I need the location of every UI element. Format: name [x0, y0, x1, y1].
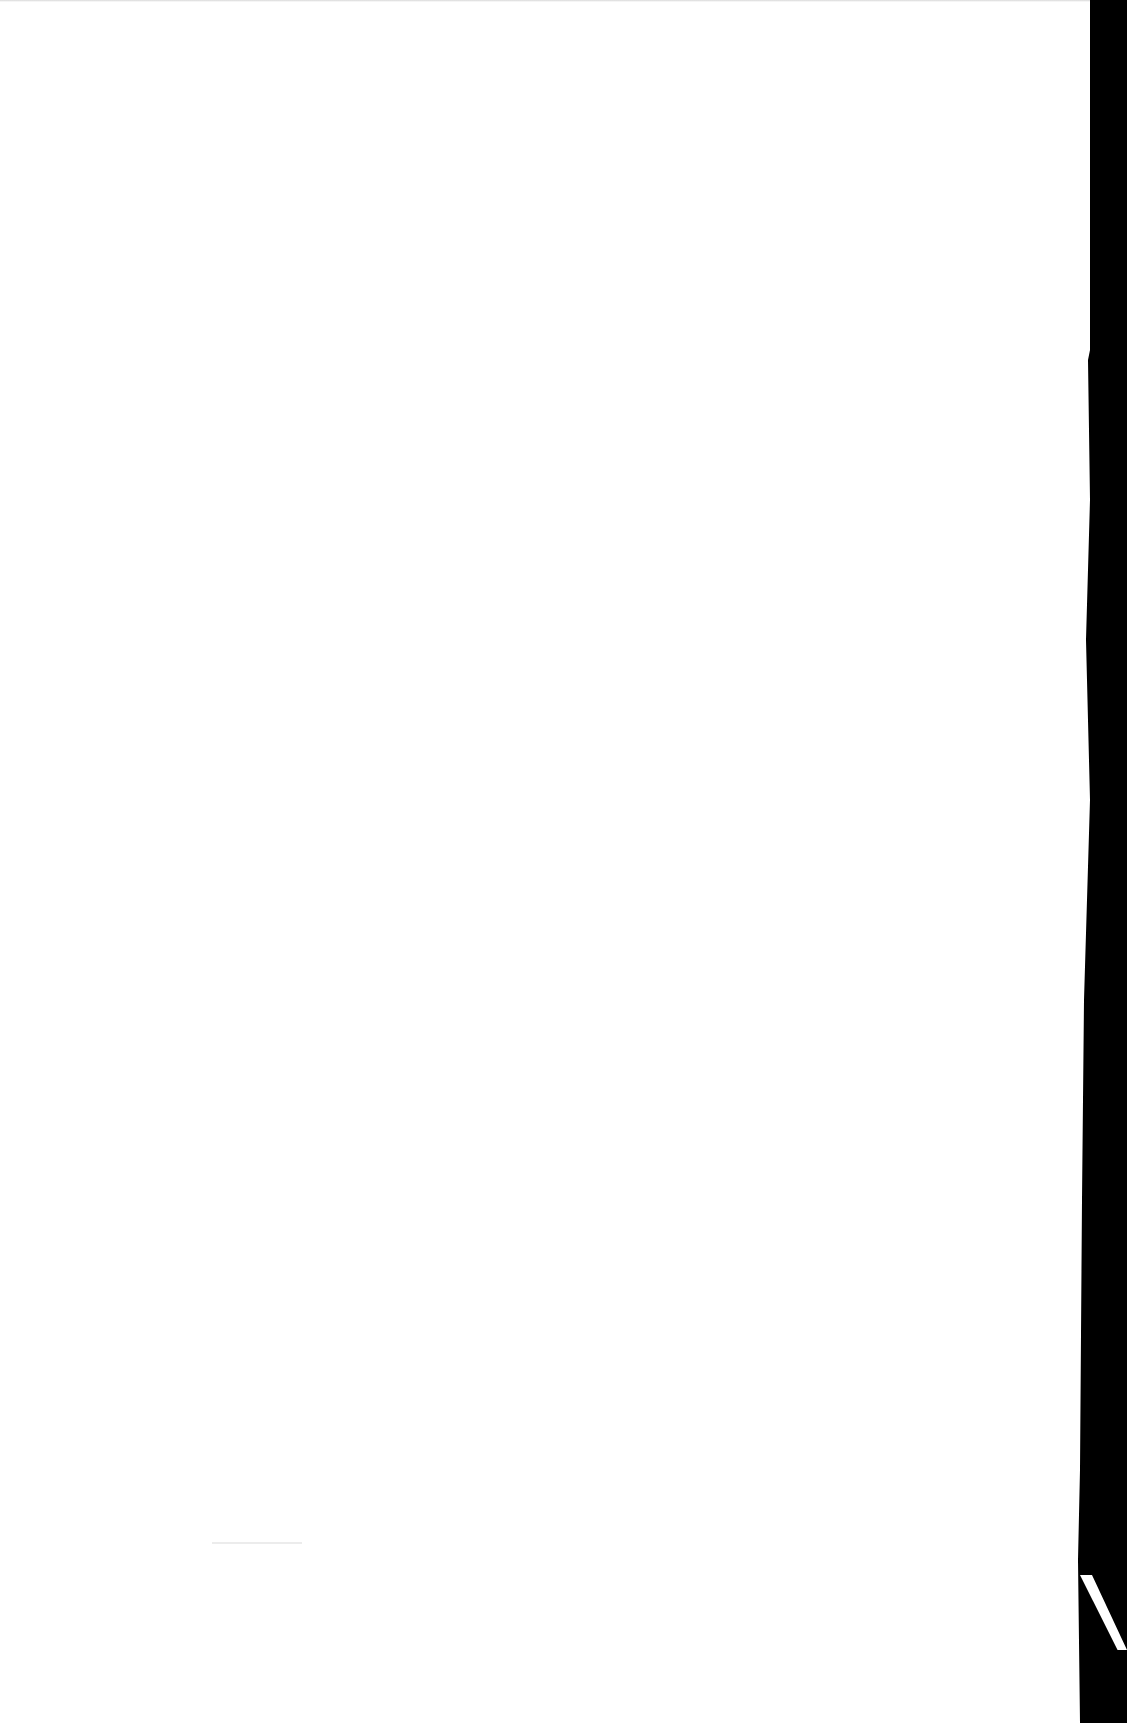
blank-page	[0, 0, 1090, 1723]
faint-rule-mark	[212, 1542, 302, 1544]
page-top-edge	[0, 0, 1090, 2]
page-edge-fold	[1080, 1575, 1127, 1650]
